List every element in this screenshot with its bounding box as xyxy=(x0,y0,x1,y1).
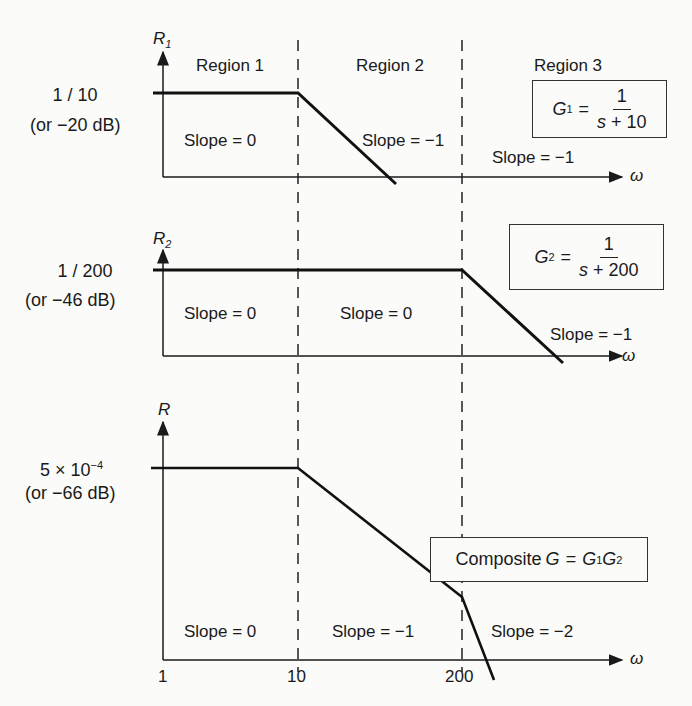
g2-transfer-function-box: G2 = 1s + 200 xyxy=(509,224,664,290)
plot1-axis-label: R1 xyxy=(153,30,171,50)
plot2-omega-label: ω xyxy=(622,347,635,364)
plot3-axis-label: R xyxy=(158,401,170,418)
plot3-slope-region3: Slope = −2 xyxy=(491,623,573,640)
region-1-label: Region 1 xyxy=(196,57,264,74)
plot3-slope-region2: Slope = −1 xyxy=(332,623,414,640)
plot2-level-db: (or −46 dB) xyxy=(25,291,116,309)
plot2-level-value: 1 / 200 xyxy=(40,262,130,280)
plot3-slope-region1: Slope = 0 xyxy=(184,623,256,640)
plot2-slope-region2: Slope = 0 xyxy=(340,305,412,322)
composite-transfer-function-box: Composite G = G1 G2 xyxy=(430,537,648,582)
g1-transfer-function-box: G1 = 1s + 10 xyxy=(532,80,667,138)
plot2-slope-region1: Slope = 0 xyxy=(184,305,256,322)
plot1-omega-label: ω xyxy=(630,167,643,184)
plot1-level-value: 1 / 10 xyxy=(30,86,120,104)
plot2-slope-region3: Slope = −1 xyxy=(550,326,632,343)
plot3-level-db: (or −66 dB) xyxy=(25,484,116,502)
plot1-slope-region1: Slope = 0 xyxy=(184,132,256,149)
plot1-slope-region2: Slope = −1 xyxy=(362,132,444,149)
plot3-level-value: 5 × 10−4 xyxy=(40,460,103,479)
region-3-label: Region 3 xyxy=(534,57,602,74)
region-2-label: Region 2 xyxy=(356,57,424,74)
plot2-axis-label: R2 xyxy=(153,230,171,250)
plot3-omega-label: ω xyxy=(630,650,643,667)
plot1-level-db: (or −20 dB) xyxy=(30,116,121,134)
x-tick-1: 1 xyxy=(158,668,167,685)
plot1-slope-region3: Slope = −1 xyxy=(492,149,574,166)
x-tick-200: 200 xyxy=(445,668,473,685)
x-tick-10: 10 xyxy=(287,668,306,685)
